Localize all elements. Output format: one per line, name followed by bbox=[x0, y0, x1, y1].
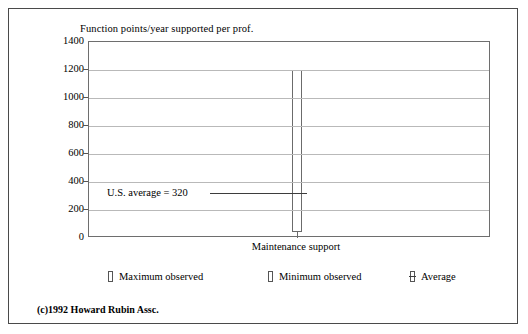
y-axis: 0200400600800100012001400 bbox=[44, 41, 84, 237]
chart-legend: Maximum observedMinimum observedAverage bbox=[88, 271, 490, 289]
legend-item-label: Maximum observed bbox=[119, 271, 203, 282]
legend-item-minimum-observed[interactable]: Minimum observed bbox=[268, 271, 362, 282]
chart-title: Function points/year supported per prof. bbox=[80, 23, 253, 34]
bar-swatch-icon bbox=[268, 271, 273, 282]
y-axis-tick-label: 1200 bbox=[48, 64, 84, 74]
gridline bbox=[89, 182, 489, 183]
plot-area: U.S. average = 320 bbox=[88, 41, 490, 237]
gridline bbox=[89, 70, 489, 71]
figure-frame: Function points/year supported per prof.… bbox=[8, 8, 518, 324]
y-axis-tick-label: 200 bbox=[48, 204, 84, 214]
y-axis-tick-label: 800 bbox=[48, 120, 84, 130]
gridline bbox=[89, 210, 489, 211]
bar-swatch-icon bbox=[108, 271, 113, 282]
y-axis-tick-label: 0 bbox=[48, 232, 84, 242]
y-axis-tick-label: 1400 bbox=[48, 36, 84, 46]
x-axis-category-label: Maintenance support bbox=[236, 241, 356, 252]
legend-item-label: Average bbox=[421, 271, 456, 282]
copyright-text: (c)1992 Howard Rubin Assc. bbox=[37, 304, 159, 315]
gridline bbox=[89, 126, 489, 127]
average-marker-line bbox=[287, 193, 307, 194]
legend-item-label: Minimum observed bbox=[279, 271, 362, 282]
legend-item-maximum-observed[interactable]: Maximum observed bbox=[108, 271, 203, 282]
bar-maintenance-support[interactable] bbox=[292, 70, 302, 232]
y-axis-tick-label: 400 bbox=[48, 176, 84, 186]
bar-baseline-tick bbox=[297, 232, 298, 238]
gridline bbox=[89, 154, 489, 155]
y-axis-tick-label: 600 bbox=[48, 148, 84, 158]
average-annotation-label: U.S. average = 320 bbox=[107, 187, 188, 198]
gridline bbox=[89, 98, 489, 99]
y-axis-tick-label: 1000 bbox=[48, 92, 84, 102]
average-leader-line bbox=[210, 193, 288, 194]
average-marker-icon bbox=[410, 271, 415, 282]
legend-item-average[interactable]: Average bbox=[410, 271, 456, 282]
